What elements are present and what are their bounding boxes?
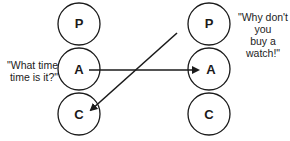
left-adult-label: A bbox=[69, 62, 89, 77]
right-quote-line1: "Why don't you bbox=[232, 11, 290, 35]
left-quote: "What time time is it?" bbox=[0, 59, 58, 83]
right-child-label: C bbox=[199, 107, 219, 122]
left-child-label: C bbox=[69, 107, 89, 122]
left-parent-label: P bbox=[69, 16, 89, 31]
left-quote-line1: "What time bbox=[0, 59, 58, 71]
right-quote-line2: buy a watch!" bbox=[232, 35, 290, 59]
arrow-parent-to-child bbox=[91, 33, 177, 110]
right-quote: "Why don't you buy a watch!" bbox=[232, 11, 290, 59]
left-quote-line2: time is it?" bbox=[0, 71, 58, 83]
right-parent-label: P bbox=[199, 16, 219, 31]
right-adult-label: A bbox=[201, 62, 221, 77]
